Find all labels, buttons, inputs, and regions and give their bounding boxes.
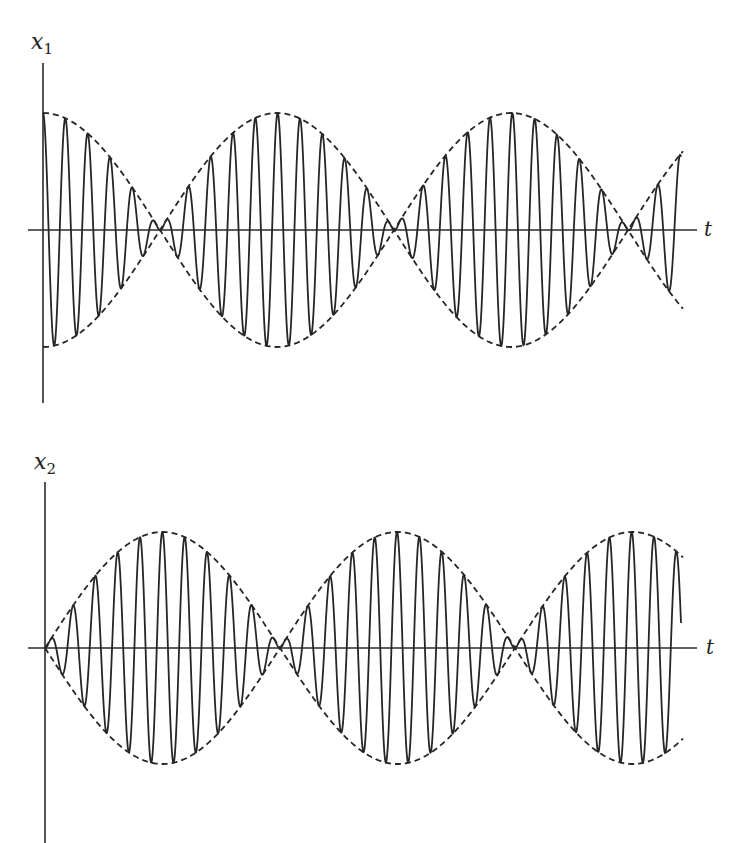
- x1-t-label: t: [704, 217, 713, 241]
- x2-t-label: t: [706, 635, 715, 659]
- x2-axis-label: x2: [34, 449, 56, 478]
- beating-figure: x1 t x2 t: [0, 0, 747, 843]
- x1-axis-label: x1: [31, 29, 53, 58]
- x1-signal-curve: [43, 113, 681, 346]
- plot-x1: x1 t: [28, 29, 713, 403]
- plot-x2: x2 t: [28, 449, 715, 843]
